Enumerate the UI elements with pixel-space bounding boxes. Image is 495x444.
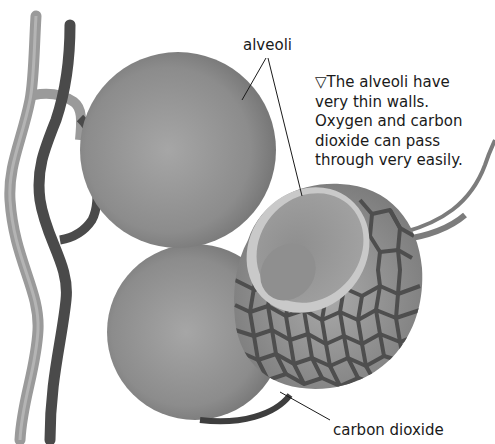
caption: ▽The alveoli have very thin walls. Oxyge… [315,73,495,171]
caption-line-4: dioxide can pass [315,132,495,152]
triangle-marker-icon: ▽ [315,73,327,91]
caption-line-5: through very easily. [315,151,495,171]
label-carbon-dioxide: carbon dioxide [333,421,444,440]
caption-line-2: very thin walls. [315,93,495,113]
label-alveoli: alveoli [243,36,292,55]
caption-line-3: Oxygen and carbon [315,112,495,132]
blood-vessel-dark [39,25,97,440]
alveoli-diagram: alveoli carbon dioxide ▽The alveoli have… [0,0,495,444]
caption-line-1: The alveoli have [327,73,450,91]
alveoli-illustration [0,0,495,444]
alveolus-upper [80,52,276,248]
